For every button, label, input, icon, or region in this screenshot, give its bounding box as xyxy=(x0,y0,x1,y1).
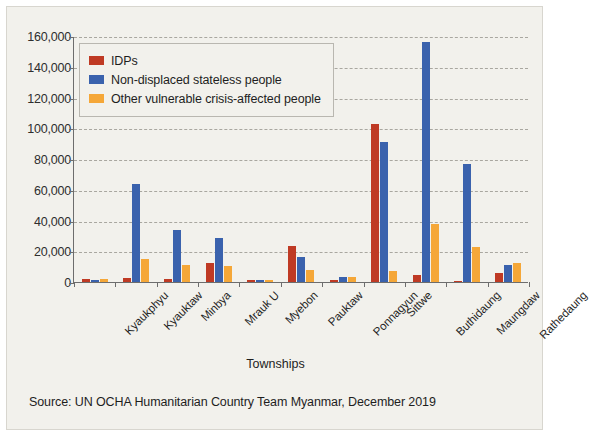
x-axis-title: Townships xyxy=(7,357,544,371)
bar[interactable] xyxy=(339,277,347,282)
bar[interactable] xyxy=(91,280,99,282)
bar[interactable] xyxy=(504,265,512,282)
bar[interactable] xyxy=(306,270,314,282)
bar[interactable] xyxy=(422,42,430,282)
y-tick-label: 120,000 xyxy=(9,92,71,106)
bar[interactable] xyxy=(288,246,296,282)
bar[interactable] xyxy=(472,247,480,282)
chart-figure: 020,00040,00060,00080,000100,000120,0001… xyxy=(6,6,543,430)
bar[interactable] xyxy=(297,257,305,282)
y-tick-label: 20,000 xyxy=(9,245,71,259)
bar[interactable] xyxy=(454,281,462,283)
bar[interactable] xyxy=(141,259,149,282)
bar[interactable] xyxy=(513,263,521,282)
bar[interactable] xyxy=(380,142,388,282)
y-axis: 020,00040,00060,00080,000100,000120,0001… xyxy=(7,37,71,283)
bar[interactable] xyxy=(431,224,439,282)
y-tick-label: 40,000 xyxy=(9,215,71,229)
y-tick-label: 0 xyxy=(9,276,71,290)
bar[interactable] xyxy=(265,280,273,282)
legend-item: Other vulnerable crisis-affected people xyxy=(89,89,321,108)
bar[interactable] xyxy=(215,238,223,282)
y-tick-label: 80,000 xyxy=(9,153,71,167)
x-tick-label: Buthidaung xyxy=(453,289,502,338)
bar-group xyxy=(364,37,405,282)
x-tick-label: Rathedaung xyxy=(537,289,589,341)
bar[interactable] xyxy=(389,271,397,282)
bar[interactable] xyxy=(206,263,214,282)
bar-group xyxy=(446,37,487,282)
legend-swatch-other-vulnerable xyxy=(89,94,104,103)
bar[interactable] xyxy=(371,124,379,282)
legend-item: IDPs xyxy=(89,51,321,70)
bar[interactable] xyxy=(256,280,264,282)
bar[interactable] xyxy=(348,277,356,282)
x-tick-label: Minbya xyxy=(199,289,233,323)
legend-label-other-vulnerable: Other vulnerable crisis-affected people xyxy=(111,92,321,106)
x-tick-label: Myebon xyxy=(283,289,320,326)
bar[interactable] xyxy=(123,278,131,282)
source-note: Source: UN OCHA Humanitarian Country Tea… xyxy=(29,395,436,409)
bar[interactable] xyxy=(182,265,190,282)
bar-group xyxy=(405,37,446,282)
bar[interactable] xyxy=(413,275,421,282)
bar[interactable] xyxy=(132,184,140,282)
x-axis: KyaukphyuKyauktawMinbyaMrauk UMyebonPauk… xyxy=(73,283,528,353)
bar[interactable] xyxy=(100,279,108,282)
bar[interactable] xyxy=(463,164,471,282)
chart-legend: IDPs Non-displaced stateless people Othe… xyxy=(79,43,334,117)
bar[interactable] xyxy=(82,279,90,282)
bar[interactable] xyxy=(173,230,181,282)
bar[interactable] xyxy=(224,266,232,282)
y-tick-label: 140,000 xyxy=(9,61,71,75)
x-tick-label: Mrauk U xyxy=(242,289,281,328)
legend-swatch-non-displaced xyxy=(89,75,104,84)
bar[interactable] xyxy=(247,280,255,282)
legend-label-idps: IDPs xyxy=(111,54,138,68)
legend-swatch-idps xyxy=(89,56,104,65)
x-tick-label: Pauktaw xyxy=(325,289,364,328)
x-tick-label: Kyaukphyu xyxy=(122,289,170,337)
legend-item: Non-displaced stateless people xyxy=(89,70,321,89)
legend-label-non-displaced: Non-displaced stateless people xyxy=(111,73,282,87)
bar[interactable] xyxy=(330,280,338,282)
y-tick-label: 160,000 xyxy=(9,30,71,44)
x-tick-mark xyxy=(529,282,530,287)
y-tick-label: 100,000 xyxy=(9,122,71,136)
bar[interactable] xyxy=(164,279,172,282)
bar[interactable] xyxy=(495,273,503,282)
bar-group xyxy=(488,37,529,282)
y-tick-label: 60,000 xyxy=(9,184,71,198)
